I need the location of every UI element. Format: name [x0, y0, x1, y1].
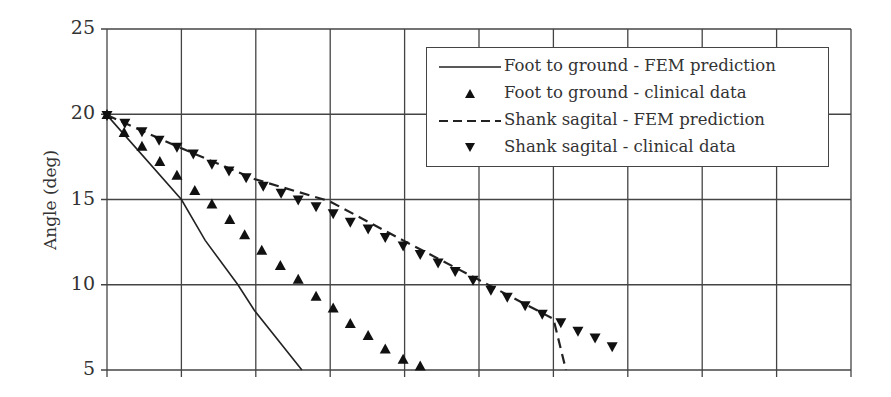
legend: Foot to ground - FEM prediction Foot to … — [426, 47, 829, 167]
y-tick-20: 20 — [55, 101, 95, 123]
y-tick-10: 10 — [55, 272, 95, 294]
dashed-line-icon — [439, 107, 501, 134]
legend-item-shank-fem: Shank sagital - FEM prediction — [427, 107, 828, 134]
down-triangle-icon — [439, 134, 501, 161]
legend-label: Shank sagital - FEM prediction — [504, 110, 765, 129]
y-tick-15: 15 — [55, 187, 95, 209]
legend-label: Foot to ground - FEM prediction — [504, 56, 776, 75]
legend-item-foot-fem: Foot to ground - FEM prediction — [427, 53, 828, 80]
y-tick-25: 25 — [55, 16, 95, 38]
legend-label: Foot to ground - clinical data — [504, 83, 747, 102]
legend-item-shank-clinical: Shank sagital - clinical data — [427, 134, 828, 161]
legend-item-foot-clinical: Foot to ground - clinical data — [427, 80, 828, 107]
y-tick-5: 5 — [55, 357, 95, 379]
up-triangle-icon — [439, 80, 501, 107]
solid-line-icon — [439, 53, 501, 80]
legend-label: Shank sagital - clinical data — [504, 137, 736, 156]
